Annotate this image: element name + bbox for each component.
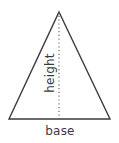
base-label: base: [45, 125, 74, 137]
triangle-diagram-svg: [0, 0, 119, 143]
triangle-diagram: height base: [0, 0, 119, 143]
height-label: height: [44, 53, 56, 92]
